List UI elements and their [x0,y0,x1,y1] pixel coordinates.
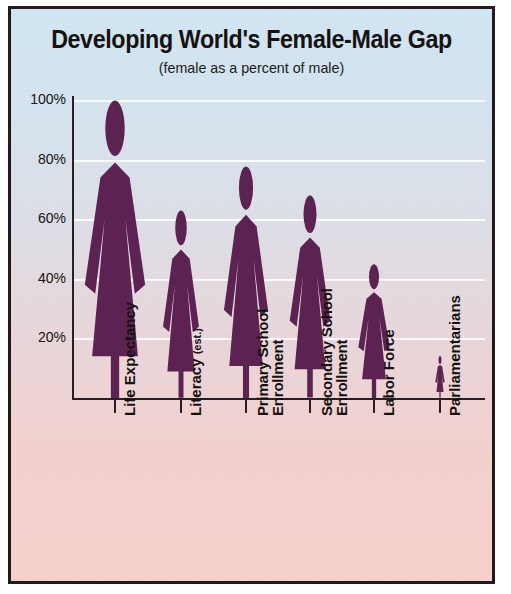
x-axis-category-label: Parliamentarians [447,295,462,416]
x-axis-tick [180,400,182,413]
x-axis-category-label: Labor Force [381,329,396,416]
x-axis-category-label: Literacy (est.) [188,328,203,416]
y-axis-tick-label: 100% [20,91,66,107]
chart-subtitle: (female as a percent of male) [23,59,480,76]
chart-poster: Developing World's Female-Male Gap (fema… [8,6,495,584]
y-axis-tick-label: 80% [20,151,66,167]
x-axis-tick [245,400,247,413]
y-axis-tick-label: 20% [20,329,66,345]
y-axis-tick-label: 40% [20,270,66,286]
x-axis-category-label: Secondary SchoolEnrollment [319,288,350,416]
x-axis-tick [439,400,441,413]
x-axis-tick [114,400,116,413]
x-axis-category-label: Life Expectancy [122,302,137,416]
x-axis-tick [309,400,311,413]
chart-title: Developing World's Female-Male Gap [28,25,475,54]
x-axis-tick [373,400,375,413]
y-axis-tick-label: 60% [20,210,66,226]
